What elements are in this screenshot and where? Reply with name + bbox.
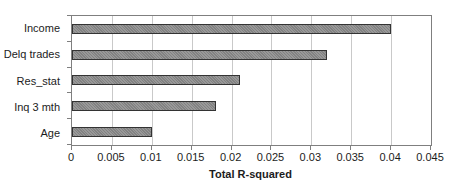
x-tick-label: 0 — [68, 151, 74, 163]
bars-layer — [72, 16, 431, 145]
x-tick-label: 0.005 — [97, 151, 125, 163]
x-tick-mark — [350, 146, 351, 150]
y-tick-mark — [67, 67, 71, 68]
bar-row — [72, 68, 431, 94]
x-tick-label: 0.04 — [379, 151, 400, 163]
x-tick-label: 0.02 — [220, 151, 241, 163]
bar-res-stat — [72, 75, 240, 85]
x-tick-mark — [191, 146, 192, 150]
bar-inq-3-mth — [72, 101, 216, 111]
category-label: Age — [0, 120, 66, 146]
x-tick-mark — [231, 146, 232, 150]
category-label: Inq 3 mth — [0, 94, 66, 120]
x-tick-label: 0.03 — [300, 151, 321, 163]
x-tick-mark — [270, 146, 271, 150]
x-tick-label: 0.015 — [177, 151, 205, 163]
plot-area — [71, 15, 432, 146]
x-tick-mark — [71, 146, 72, 150]
x-tick-mark — [111, 146, 112, 150]
category-label: Income — [0, 15, 66, 41]
bar-delq-trades — [72, 50, 327, 60]
x-tick-mark — [151, 146, 152, 150]
bar-row — [72, 16, 431, 42]
y-tick-mark — [67, 144, 71, 145]
bar-row — [72, 119, 431, 145]
category-label: Res_stat — [0, 67, 66, 93]
y-tick-mark — [67, 92, 71, 93]
bar-age — [72, 127, 152, 137]
x-tick-mark — [430, 146, 431, 150]
bar-row — [72, 42, 431, 68]
x-tick-mark — [310, 146, 311, 150]
bar-income — [72, 24, 391, 34]
y-tick-mark — [67, 118, 71, 119]
x-tick-label: 0.045 — [416, 151, 444, 163]
x-tick-label: 0.01 — [140, 151, 161, 163]
x-tick-label: 0.035 — [336, 151, 364, 163]
bar-chart: IncomeDelq tradesRes_statInq 3 mthAge 00… — [0, 0, 463, 189]
x-tick-mark — [390, 146, 391, 150]
x-axis-title: Total R-squared — [71, 168, 430, 180]
x-tick-label: 0.025 — [257, 151, 285, 163]
bar-row — [72, 93, 431, 119]
y-tick-mark — [67, 41, 71, 42]
y-tick-mark — [67, 15, 71, 16]
category-axis-labels: IncomeDelq tradesRes_statInq 3 mthAge — [0, 15, 66, 146]
category-label: Delq trades — [0, 41, 66, 67]
